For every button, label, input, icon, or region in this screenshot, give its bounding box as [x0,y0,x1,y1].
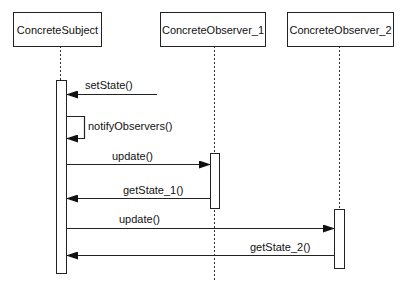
participant-label: ConcreteObserver_1 [162,24,264,36]
message-label-notify-observers: notifyObservers() [88,120,172,132]
participant-concrete-observer-1: ConcreteObserver_1 [160,12,266,47]
message-label-get-state-1: getState_1() [123,184,184,196]
arrow-notify-observers [67,117,85,139]
participant-concrete-subject: ConcreteSubject [13,12,102,47]
message-label-get-state-2: getState_2() [250,241,311,253]
message-label-update-2: update() [119,213,160,225]
activation-bar-concrete-subject [57,81,67,274]
activation-bar-concrete-observer-1 [211,154,220,209]
message-label-set-state: setState() [85,79,133,91]
participant-label: ConcreteObserver_2 [289,24,391,36]
participant-label: ConcreteSubject [17,24,98,36]
activation-bar-concrete-observer-2 [335,210,345,269]
participant-concrete-observer-2: ConcreteObserver_2 [287,12,394,47]
message-label-update-1: update() [112,150,153,162]
